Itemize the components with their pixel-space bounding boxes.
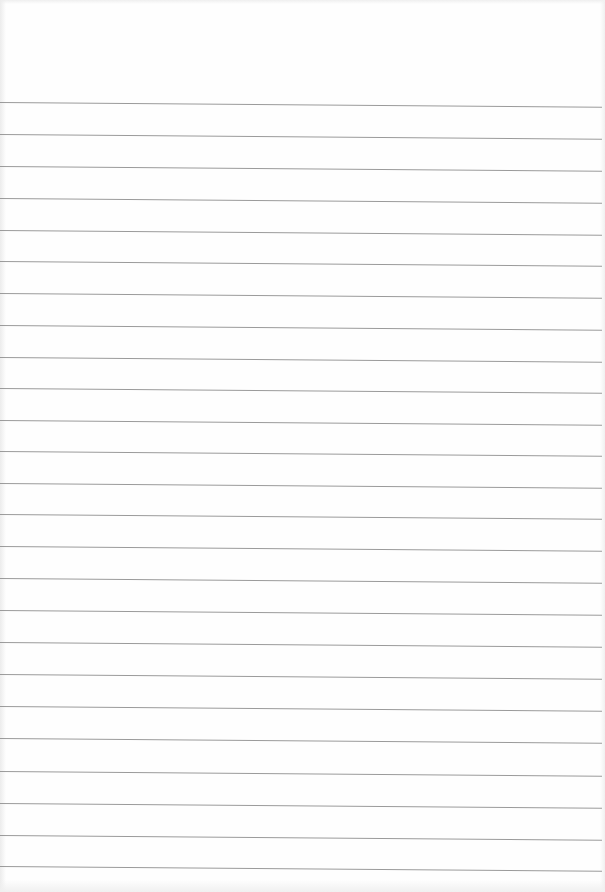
ruled-line	[0, 293, 602, 299]
ruled-line	[0, 674, 602, 680]
ruled-line	[0, 514, 602, 520]
ruled-line	[0, 483, 602, 489]
ruled-line	[0, 325, 602, 331]
ruled-line	[0, 738, 602, 744]
ruled-line	[0, 706, 602, 712]
ruled-line	[0, 866, 602, 872]
ruled-lines	[0, 0, 605, 892]
ruled-line	[0, 771, 602, 777]
ruled-line	[0, 420, 602, 426]
ruled-line	[0, 198, 602, 204]
ruled-line	[0, 166, 602, 172]
ruled-line	[0, 230, 602, 236]
ruled-line	[0, 134, 602, 140]
ruled-paper-sheet	[0, 0, 605, 892]
ruled-line	[0, 451, 602, 457]
ruled-line	[0, 803, 602, 809]
ruled-line	[0, 357, 602, 363]
ruled-line	[0, 388, 602, 394]
ruled-line	[0, 610, 602, 616]
ruled-line	[0, 261, 602, 267]
ruled-line	[0, 102, 602, 108]
ruled-line	[0, 578, 602, 584]
ruled-line	[0, 546, 602, 552]
ruled-line	[0, 835, 602, 841]
ruled-line	[0, 642, 602, 648]
